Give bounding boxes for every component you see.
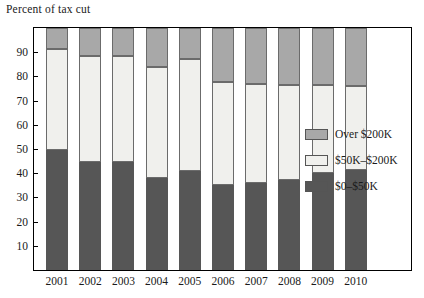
y-tick-label: 50 <box>17 143 29 155</box>
x-tick-label: 2010 <box>336 275 376 287</box>
legend-item[interactable]: $50K–$200K <box>305 147 409 173</box>
legend-label: $0–$50K <box>335 180 378 192</box>
bar-segment-50k-200k[interactable] <box>212 82 234 185</box>
bar-group[interactable] <box>79 28 101 270</box>
y-tick-label: 90 <box>17 46 29 58</box>
bar-group[interactable] <box>212 28 234 270</box>
bar-segment-over-200k[interactable] <box>179 28 201 59</box>
legend-label: Over $200K <box>335 128 392 140</box>
bar-segment-over-200k[interactable] <box>245 28 267 84</box>
bar-segment-over-200k[interactable] <box>312 28 334 85</box>
chart-figure: Percent of tax cut 102030405060708090 20… <box>0 0 424 298</box>
bar-group[interactable] <box>46 28 68 270</box>
legend-item[interactable]: Over $200K <box>305 121 409 147</box>
bar-segment-50k-200k[interactable] <box>278 85 300 181</box>
bar-group[interactable] <box>278 28 300 270</box>
legend-item[interactable]: $0–$50K <box>305 173 409 199</box>
legend-swatch-icon <box>305 155 328 166</box>
bar-segment-0-50k[interactable] <box>79 162 101 270</box>
bar-segment-50k-200k[interactable] <box>245 84 267 183</box>
bar-segment-over-200k[interactable] <box>112 28 134 56</box>
bar-group[interactable] <box>112 28 134 270</box>
legend-swatch-icon <box>305 129 328 140</box>
y-tick-label: 80 <box>17 70 29 82</box>
legend-label: $50K–$200K <box>335 154 398 166</box>
bar-segment-over-200k[interactable] <box>212 28 234 82</box>
bar-segment-over-200k[interactable] <box>46 28 68 49</box>
bar-segment-50k-200k[interactable] <box>179 59 201 170</box>
bar-group[interactable] <box>179 28 201 270</box>
bar-segment-0-50k[interactable] <box>112 162 134 270</box>
y-tick-label: 10 <box>17 240 29 252</box>
bar-segment-over-200k[interactable] <box>79 28 101 56</box>
bar-segment-50k-200k[interactable] <box>112 56 134 162</box>
y-tick-label: 30 <box>17 191 29 203</box>
y-tick-label: 60 <box>17 119 29 131</box>
y-tick-label: 70 <box>17 95 29 107</box>
bar-segment-0-50k[interactable] <box>245 183 267 270</box>
bar-segment-0-50k[interactable] <box>212 185 234 270</box>
bar-group[interactable] <box>245 28 267 270</box>
y-tick-label: 40 <box>17 167 29 179</box>
bar-segment-50k-200k[interactable] <box>79 56 101 162</box>
legend-swatch-icon <box>305 181 328 192</box>
bar-segment-50k-200k[interactable] <box>146 67 168 178</box>
y-axis-tick-labels: 102030405060708090 <box>0 0 28 298</box>
bar-segment-over-200k[interactable] <box>345 28 367 86</box>
y-tick-label: 20 <box>17 216 29 228</box>
chart-legend: Over $200K$50K–$200K$0–$50K <box>305 121 409 199</box>
bar-segment-over-200k[interactable] <box>278 28 300 85</box>
bar-segment-50k-200k[interactable] <box>46 49 68 151</box>
bar-segment-0-50k[interactable] <box>179 171 201 270</box>
bar-segment-0-50k[interactable] <box>46 150 68 270</box>
bar-segment-0-50k[interactable] <box>146 178 168 270</box>
bar-segment-over-200k[interactable] <box>146 28 168 67</box>
bar-group[interactable] <box>146 28 168 270</box>
bar-segment-0-50k[interactable] <box>278 180 300 270</box>
